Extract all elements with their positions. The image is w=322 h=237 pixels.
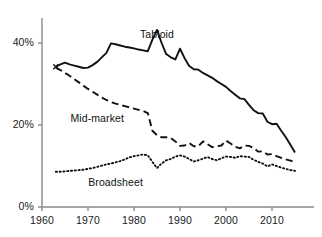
series-line-tabloid — [56, 30, 295, 153]
series-label-mid-market: Mid-market — [70, 112, 124, 124]
x-axis-tick-label: 1980 — [109, 214, 159, 226]
series-label-broadsheet: Broadsheet — [88, 176, 143, 188]
series-label-tabloid: Tabloid — [140, 28, 174, 40]
y-axis-tick-label: 40% — [0, 36, 34, 48]
x-axis-tick-label: 2000 — [201, 214, 251, 226]
chart-series-group — [53, 30, 295, 172]
chart-container: 0%20%40%196019701980199020002010TabloidM… — [0, 0, 322, 237]
x-axis-tick-label: 1990 — [155, 214, 205, 226]
series-line-broadsheet — [56, 155, 295, 172]
y-axis-tick-label: 0% — [0, 200, 34, 212]
x-axis-tick-label: 1970 — [63, 214, 113, 226]
y-axis-tick-label: 20% — [0, 118, 34, 130]
x-axis-tick-label: 2010 — [247, 214, 297, 226]
x-axis-tick-label: 1960 — [17, 214, 67, 226]
